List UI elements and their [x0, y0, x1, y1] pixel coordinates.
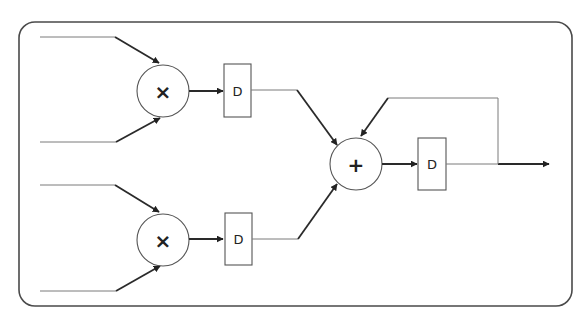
delay-box-output: D	[418, 138, 446, 190]
delay-label: D	[427, 157, 437, 172]
mac-block-diagram: × D × D + D	[0, 0, 588, 329]
multiplier-node-bottom: ×	[137, 214, 189, 266]
feedback-arrow-to-adder	[361, 98, 388, 136]
delay-box-bottom: D	[225, 213, 252, 265]
input-line-3	[40, 185, 159, 212]
multiplier-node-top: ×	[137, 65, 189, 117]
delay-label: D	[232, 84, 242, 99]
delay-label: D	[233, 232, 243, 247]
input-line-1	[40, 37, 159, 63]
input-line-4	[40, 266, 160, 291]
plus-symbol: +	[348, 153, 365, 177]
arrow-delay-top-to-adder	[297, 90, 337, 145]
adder-node: +	[330, 138, 382, 190]
arrow-delay-bottom-to-adder	[298, 184, 337, 239]
delay-box-top: D	[224, 64, 251, 117]
multiply-symbol: ×	[155, 229, 172, 253]
multiply-symbol: ×	[155, 80, 172, 104]
input-line-2	[40, 118, 160, 142]
